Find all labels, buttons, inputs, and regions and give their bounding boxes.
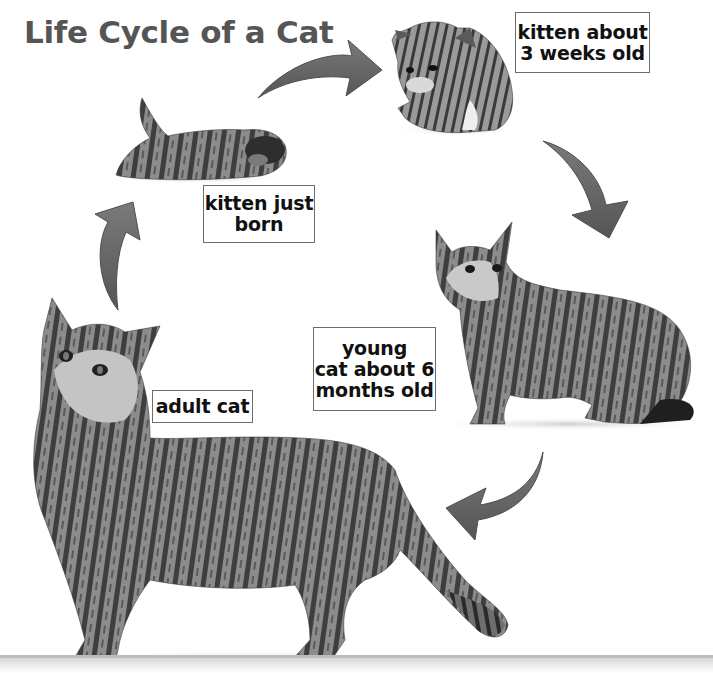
label-young-cat-6-months: young cat about 6 months old — [313, 327, 436, 411]
six-month-cat-image — [430, 222, 710, 431]
arrow-6-months-to-adult-icon — [446, 452, 543, 540]
label-adult-cat: adult cat — [152, 390, 253, 423]
label-kitten-3-weeks: kitten about 3 weeks old — [515, 12, 650, 73]
life-cycle-diagram: Life Cycle of a Cat kitten just born kit… — [0, 0, 713, 673]
diagram-title: Life Cycle of a Cat — [24, 14, 334, 50]
arrow-3-weeks-to-6-months-icon — [543, 141, 628, 238]
three-week-kitten-image — [392, 22, 515, 136]
newborn-kitten-image — [110, 98, 290, 184]
floor-line — [0, 655, 713, 673]
label-kitten-just-born: kitten just born — [203, 185, 315, 243]
arrow-adult-to-newborn-icon — [95, 202, 140, 310]
